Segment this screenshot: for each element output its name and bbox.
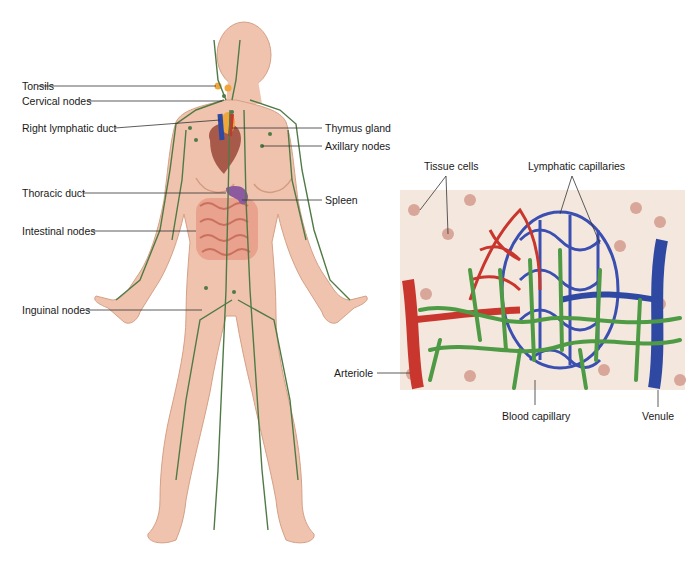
label-arteriole: Arteriole bbox=[334, 367, 373, 379]
label-tonsils: Tonsils bbox=[22, 80, 54, 92]
human-body-figure bbox=[95, 22, 368, 543]
label-inguinal-nodes: Inguinal nodes bbox=[22, 304, 90, 316]
label-intestinal-nodes: Intestinal nodes bbox=[22, 225, 96, 237]
label-axillary-nodes: Axillary nodes bbox=[325, 140, 390, 152]
label-blood-capillary: Blood capillary bbox=[502, 410, 570, 422]
label-tissue-cells: Tissue cells bbox=[424, 160, 478, 172]
capillary-bed-detail bbox=[400, 190, 686, 390]
label-cervical-nodes: Cervical nodes bbox=[22, 95, 91, 107]
label-thoracic-duct: Thoracic duct bbox=[22, 187, 85, 199]
label-right-lymphatic-duct: Right lymphatic duct bbox=[22, 122, 117, 134]
label-lymphatic-capillaries: Lymphatic capillaries bbox=[528, 160, 625, 172]
label-thymus-gland: Thymus gland bbox=[325, 122, 391, 134]
venule bbox=[654, 240, 662, 388]
label-venule: Venule bbox=[642, 410, 674, 422]
label-spleen: Spleen bbox=[325, 194, 358, 206]
lymphatic-system-diagram bbox=[0, 0, 698, 561]
